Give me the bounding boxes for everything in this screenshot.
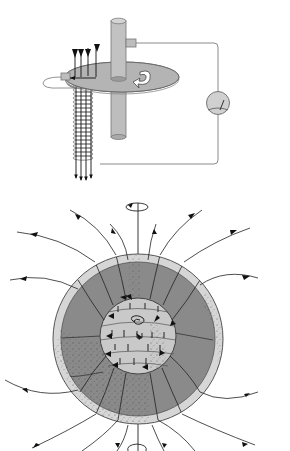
rim-brush-contact (61, 73, 70, 80)
meter-icon (207, 92, 230, 115)
rotation-arrow-bottom-icon (128, 444, 147, 451)
axle-upper (111, 21, 126, 79)
earth-geodynamo-diagram (5, 203, 258, 451)
axle-lower (111, 85, 126, 137)
diagram-canvas (0, 0, 290, 451)
coil-icon (73, 80, 93, 180)
disc-dynamo-diagram (43, 18, 230, 180)
rotation-arrow-top-icon (126, 203, 148, 211)
axle-brush-contact (126, 39, 136, 47)
